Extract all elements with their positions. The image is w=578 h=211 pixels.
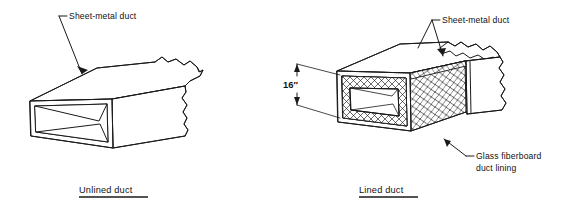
figure-canvas: Sheet-metal duct Unlined duct 16″ Sheet-… xyxy=(0,0,578,211)
unlined-sheet-metal-duct-label: Sheet-metal duct xyxy=(69,11,137,21)
lined-duct-caption: Lined duct xyxy=(359,185,404,195)
glass-fiberboard-label-line1: Glass fiberboard xyxy=(476,151,542,161)
unlined-duct-caption: Unlined duct xyxy=(79,185,133,195)
duct-height-dimension-label: 16″ xyxy=(283,79,298,90)
duct-comparison-diagram: Sheet-metal duct Unlined duct 16″ Sheet-… xyxy=(0,0,578,211)
lined-duct-sheet-metal-right-block xyxy=(466,57,506,114)
lined-duct-drawing xyxy=(294,20,506,197)
lined-sheet-metal-duct-label: Sheet-metal duct xyxy=(442,15,510,25)
dimension-arrow-up-icon xyxy=(294,64,300,72)
glass-fiberboard-label-line2: duct lining xyxy=(476,163,516,173)
dimension-extension-line-top xyxy=(297,64,340,75)
unlined-callout-leader-diagonal xyxy=(59,16,82,74)
dimension-extension-line-bottom xyxy=(297,105,340,118)
dimension-arrow-down-icon xyxy=(294,97,300,105)
unlined-duct-drawing xyxy=(30,16,203,197)
